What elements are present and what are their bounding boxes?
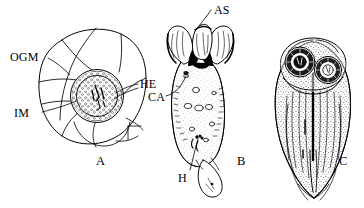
panel-letter-b: B: [237, 155, 245, 168]
panel-b-larva: [166, 10, 234, 197]
label-h: H: [178, 172, 187, 184]
leader-ogm: [48, 58, 70, 75]
label-ogm: OGM: [10, 51, 39, 63]
label-as: AS: [214, 4, 230, 16]
label-he: HE: [140, 78, 156, 90]
panel-letter-a: A: [96, 155, 105, 168]
panel-letter-c: C: [339, 155, 347, 168]
label-ca: CA: [148, 91, 165, 103]
panel-c-larva: [270, 36, 356, 202]
label-im: IM: [14, 107, 29, 119]
panel-a-egg: [39, 28, 146, 147]
ca-granule: [184, 71, 189, 74]
figure-container: OGM IM HE CA AS H A B C: [0, 0, 364, 208]
leader-as: [199, 10, 211, 26]
